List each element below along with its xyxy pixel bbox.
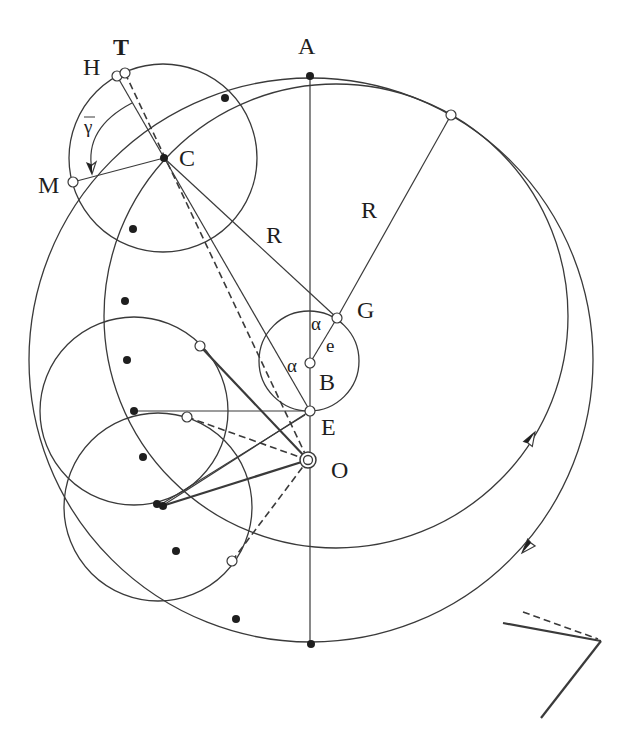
label-o: O	[331, 457, 348, 483]
track-dot-5	[130, 407, 138, 415]
label-alpha-upper: α	[311, 313, 321, 334]
label-c: C	[179, 145, 195, 171]
epicycle-point-upper	[195, 341, 205, 351]
point-m	[68, 177, 78, 187]
bottom-point	[307, 640, 315, 648]
track-dot-2	[129, 225, 137, 233]
label-h: H	[83, 54, 100, 80]
label-b: B	[319, 369, 335, 395]
label-m: M	[38, 172, 59, 198]
point-c	[160, 154, 168, 162]
label-gamma-bar: γ	[83, 116, 92, 137]
track-dot-1	[221, 94, 229, 102]
point-o-inner	[304, 456, 313, 465]
epicycle-point-middle	[182, 412, 192, 422]
point-a	[306, 72, 314, 80]
label-e-point: E	[321, 414, 336, 440]
label-r-upper-right: R	[361, 197, 377, 223]
track-dot-7b	[159, 502, 167, 510]
label-e: e	[326, 335, 334, 356]
track-dot-6	[139, 453, 147, 461]
eccentric-epicycle-diagram: A T H C M R R G α e α B E O γ	[0, 0, 634, 750]
track-dot-9	[232, 615, 240, 623]
background	[0, 0, 634, 750]
point-top-right	[446, 110, 456, 120]
label-g: G	[357, 297, 374, 323]
track-dot-3	[121, 297, 129, 305]
label-t: T	[113, 34, 129, 60]
point-e	[305, 406, 315, 416]
epicycle-point-lower	[227, 556, 237, 566]
track-dot-4	[123, 356, 131, 364]
point-g	[332, 313, 342, 323]
point-t	[120, 68, 130, 78]
track-dot-8	[172, 547, 180, 555]
label-r-left: R	[266, 222, 282, 248]
label-alpha-left: α	[287, 355, 297, 376]
label-a: A	[298, 33, 316, 59]
point-b	[305, 358, 315, 368]
